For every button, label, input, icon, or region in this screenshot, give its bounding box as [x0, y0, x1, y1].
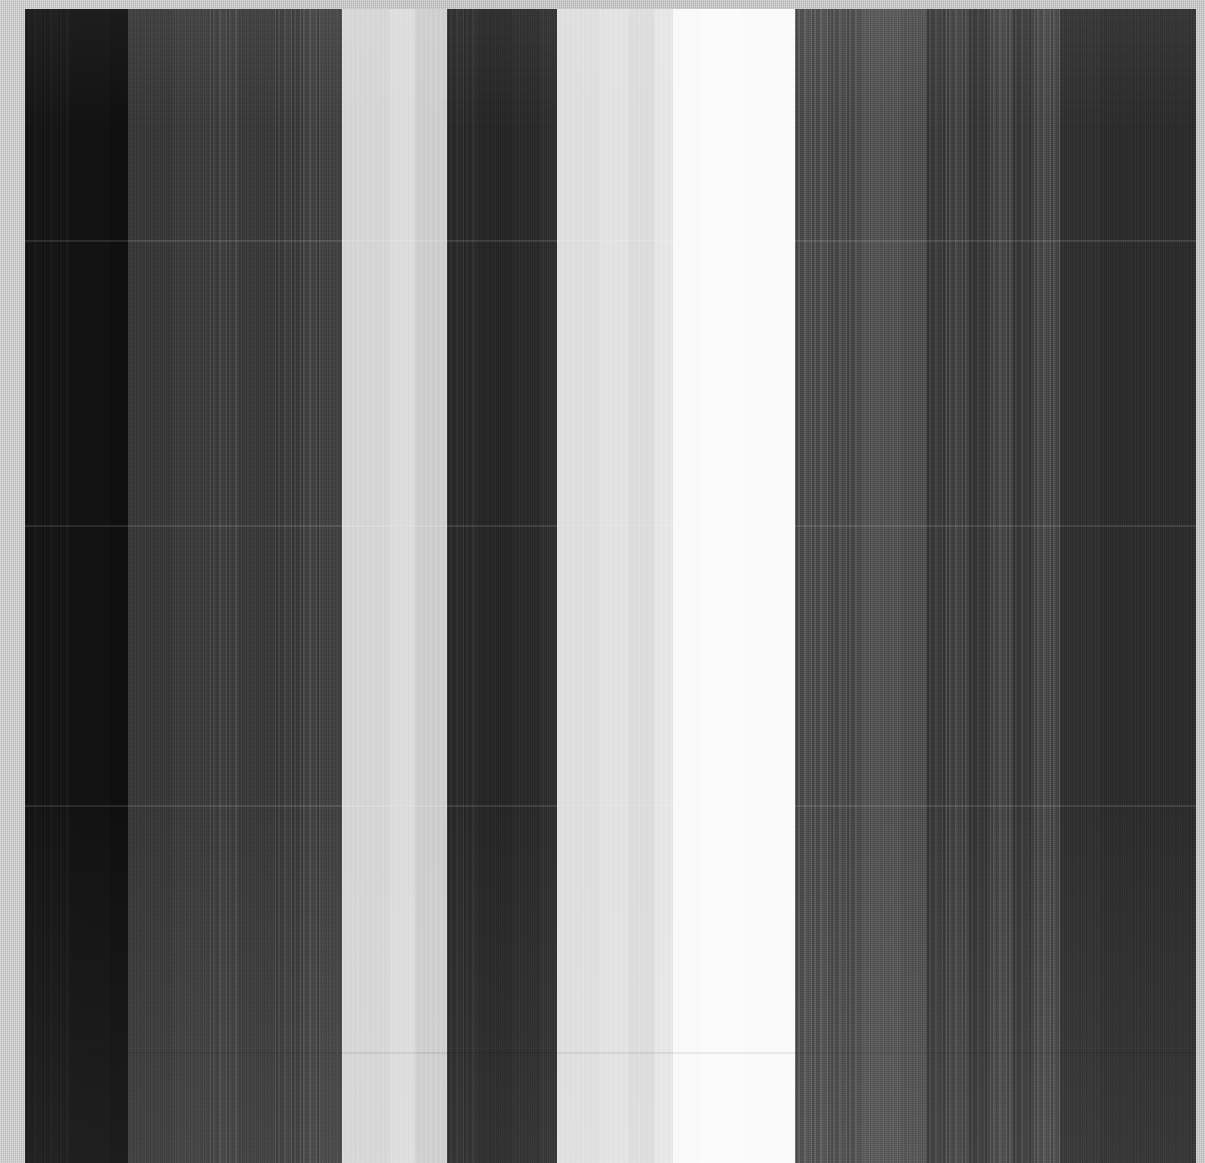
raster-band: [275, 9, 300, 1163]
band-stripe-texture: [300, 9, 320, 1163]
raster-band: [946, 9, 968, 1163]
raster-band: [320, 9, 342, 1163]
raster-band: [900, 9, 926, 1163]
raster-band: [238, 9, 275, 1163]
raster-band: [673, 9, 700, 1163]
band-stripe-texture: [128, 9, 175, 1163]
band-stripe-texture: [70, 9, 110, 1163]
raster-band: [415, 9, 447, 1163]
band-stripe-texture: [540, 9, 557, 1163]
band-stripe-texture: [700, 9, 740, 1163]
band-stripe-texture: [990, 9, 1012, 1163]
raster-band: [390, 9, 415, 1163]
band-stripe-texture: [1060, 9, 1100, 1163]
raster-band: [447, 9, 478, 1163]
band-stripe-texture: [320, 9, 342, 1163]
band-stripe-texture: [390, 9, 415, 1163]
raster-band: [540, 9, 557, 1163]
raster-band: [342, 9, 390, 1163]
raster-band: [128, 9, 175, 1163]
band-stripe-texture: [478, 9, 512, 1163]
band-stripe-texture: [628, 9, 655, 1163]
raster-band: [25, 9, 70, 1163]
raster-band: [478, 9, 512, 1163]
raster-band: [1100, 9, 1196, 1163]
raster-band: [600, 9, 628, 1163]
band-stripe-texture: [557, 9, 600, 1163]
band-stripe-texture: [342, 9, 390, 1163]
raster-plate: [25, 9, 1196, 1163]
band-stripe-texture: [862, 9, 900, 1163]
raster-band: [655, 9, 673, 1163]
band-stripe-texture: [600, 9, 628, 1163]
band-stripe-texture: [415, 9, 447, 1163]
raster-band: [740, 9, 795, 1163]
raster-band: [512, 9, 540, 1163]
band-stripe-texture: [946, 9, 968, 1163]
band-stripe-texture: [830, 9, 862, 1163]
raster-band: [628, 9, 655, 1163]
raster-band: [968, 9, 990, 1163]
band-stripe-texture: [926, 9, 946, 1163]
band-stripe-texture: [795, 9, 830, 1163]
raster-band: [926, 9, 946, 1163]
band-stripe-texture: [1100, 9, 1196, 1163]
band-stripe-texture: [110, 9, 128, 1163]
band-stripe-texture: [655, 9, 673, 1163]
raster-band: [830, 9, 862, 1163]
screenshot-root: [0, 0, 1205, 1163]
raster-band: [990, 9, 1012, 1163]
raster-band: [862, 9, 900, 1163]
raster-band: [300, 9, 320, 1163]
raster-band: [1060, 9, 1100, 1163]
band-stripe-texture: [447, 9, 478, 1163]
band-stripe-texture: [673, 9, 700, 1163]
band-stripe-texture: [968, 9, 990, 1163]
band-stripe-texture: [210, 9, 238, 1163]
band-stripe-texture: [238, 9, 275, 1163]
raster-band: [557, 9, 600, 1163]
band-stripe-texture: [175, 9, 210, 1163]
raster-band: [70, 9, 110, 1163]
band-stripe-texture: [25, 9, 70, 1163]
band-stripe-texture: [1012, 9, 1034, 1163]
raster-band: [700, 9, 740, 1163]
band-stripe-texture: [900, 9, 926, 1163]
band-stripe-texture: [512, 9, 540, 1163]
band-stripe-texture: [1034, 9, 1060, 1163]
raster-band: [1034, 9, 1060, 1163]
raster-band: [175, 9, 210, 1163]
raster-band: [795, 9, 830, 1163]
band-stripe-texture: [740, 9, 795, 1163]
raster-band: [1012, 9, 1034, 1163]
band-stripe-texture: [275, 9, 300, 1163]
raster-band: [110, 9, 128, 1163]
raster-band: [210, 9, 238, 1163]
